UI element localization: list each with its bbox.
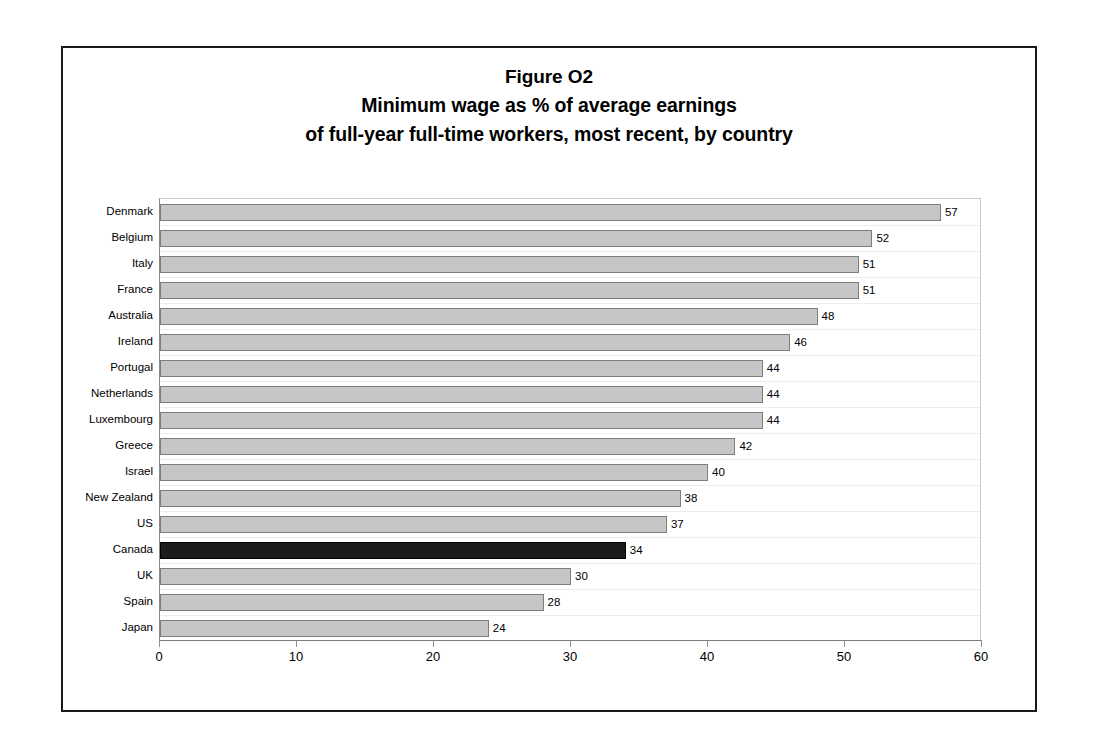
y-label-luxembourg: Luxembourg [89, 412, 153, 426]
bar-ireland[interactable] [160, 334, 790, 351]
bar-greece[interactable] [160, 438, 735, 455]
bar-row: 51 [160, 277, 980, 303]
bar-us[interactable] [160, 516, 667, 533]
y-label-portugal: Portugal [110, 360, 153, 374]
bar-value-label: 44 [767, 386, 780, 403]
bar-value-label: 37 [671, 516, 684, 533]
y-label-us: US [137, 516, 153, 530]
bar-value-label: 51 [863, 256, 876, 273]
y-label-japan: Japan [122, 620, 153, 634]
bar-israel[interactable] [160, 464, 708, 481]
bar-spain[interactable] [160, 594, 544, 611]
x-tick-label: 40 [687, 649, 727, 664]
bar-value-label: 57 [945, 204, 958, 221]
bar-portugal[interactable] [160, 360, 763, 377]
y-label-uk: UK [137, 568, 153, 582]
y-label-greece: Greece [115, 438, 153, 452]
bar-value-label: 24 [493, 620, 506, 637]
bar-row: 42 [160, 433, 980, 459]
figure-frame: Figure O2 Minimum wage as % of average e… [61, 46, 1037, 712]
chart-title-line-2: Minimum wage as % of average earnings [63, 91, 1035, 120]
x-tick-label: 0 [139, 649, 179, 664]
bar-uk[interactable] [160, 568, 571, 585]
x-tick-mark [433, 640, 434, 647]
bar-value-label: 30 [575, 568, 588, 585]
x-tick-label: 30 [550, 649, 590, 664]
x-tick-label: 20 [413, 649, 453, 664]
x-tick-mark [159, 640, 160, 647]
bar-row: 37 [160, 511, 980, 537]
bar-row: 34 [160, 537, 980, 563]
bar-row: 48 [160, 303, 980, 329]
x-tick-label: 60 [961, 649, 1001, 664]
bar-netherlands[interactable] [160, 386, 763, 403]
y-label-australia: Australia [108, 308, 153, 322]
bar-denmark[interactable] [160, 204, 941, 221]
bar-value-label: 51 [863, 282, 876, 299]
bar-row: 28 [160, 589, 980, 615]
x-tick-mark [707, 640, 708, 647]
y-label-spain: Spain [124, 594, 153, 608]
x-tick-label: 50 [824, 649, 864, 664]
bar-australia[interactable] [160, 308, 818, 325]
bar-value-label: 52 [876, 230, 889, 247]
bar-row: 46 [160, 329, 980, 355]
y-axis-category-labels: DenmarkBelgiumItalyFranceAustraliaIrelan… [63, 198, 153, 640]
bar-row: 40 [160, 459, 980, 485]
bar-value-label: 34 [630, 542, 643, 559]
y-label-israel: Israel [125, 464, 153, 478]
y-label-ireland: Ireland [118, 334, 153, 348]
bar-canada[interactable] [160, 542, 626, 559]
y-label-canada: Canada [113, 542, 153, 556]
bar-row: 52 [160, 225, 980, 251]
bar-row: 57 [160, 199, 980, 225]
chart-title-line-1: Figure O2 [63, 62, 1035, 91]
bar-belgium[interactable] [160, 230, 872, 247]
bar-japan[interactable] [160, 620, 489, 637]
bar-row: 51 [160, 251, 980, 277]
bar-luxembourg[interactable] [160, 412, 763, 429]
x-axis-ticks: 0102030405060 [159, 640, 982, 670]
y-label-denmark: Denmark [106, 204, 153, 218]
bar-value-label: 46 [794, 334, 807, 351]
bar-row: 44 [160, 407, 980, 433]
bar-value-label: 48 [822, 308, 835, 325]
x-tick-label: 10 [276, 649, 316, 664]
bar-row: 44 [160, 355, 980, 381]
x-tick-mark [570, 640, 571, 647]
x-tick-mark [844, 640, 845, 647]
bar-value-label: 40 [712, 464, 725, 481]
bar-row: 30 [160, 563, 980, 589]
y-label-italy: Italy [132, 256, 153, 270]
bar-value-label: 42 [739, 438, 752, 455]
bar-new-zealand[interactable] [160, 490, 681, 507]
y-label-netherlands: Netherlands [91, 386, 153, 400]
plot-area: 5752515148464444444240383734302824 [159, 198, 981, 640]
bar-value-label: 28 [548, 594, 561, 611]
bar-value-label: 38 [685, 490, 698, 507]
x-tick-mark [296, 640, 297, 647]
x-tick-mark [981, 640, 982, 647]
y-label-new-zealand: New Zealand [85, 490, 153, 504]
bar-value-label: 44 [767, 412, 780, 429]
chart-title: Figure O2 Minimum wage as % of average e… [63, 62, 1035, 149]
bar-france[interactable] [160, 282, 859, 299]
bar-row: 44 [160, 381, 980, 407]
y-label-france: France [117, 282, 153, 296]
bar-row: 38 [160, 485, 980, 511]
bar-italy[interactable] [160, 256, 859, 273]
bar-value-label: 44 [767, 360, 780, 377]
chart-title-line-3: of full-year full-time workers, most rec… [63, 120, 1035, 149]
bar-row: 24 [160, 615, 980, 641]
y-label-belgium: Belgium [111, 230, 153, 244]
